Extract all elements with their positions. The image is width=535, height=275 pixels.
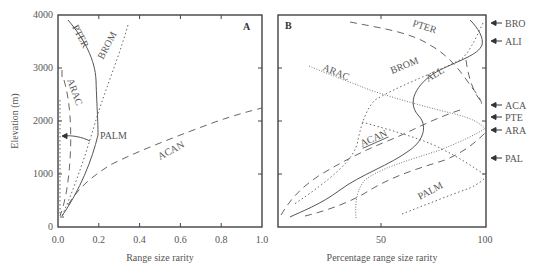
svg-text:ACA: ACA: [505, 100, 527, 111]
y-tick-0: 0: [48, 221, 53, 232]
marker-ara: ARA: [491, 125, 527, 136]
curve-b-all: [290, 20, 482, 217]
panel-b: 50 100 Percentage range size rarity B PT…: [278, 15, 527, 263]
x-tick-0.2: 0.2: [93, 234, 106, 245]
label-a-palm: PALM: [100, 130, 127, 141]
label-b-brom: BROM: [389, 55, 421, 76]
panel-a: 4000 3000 2000 1000 0 Elevation (m) 0.0 …: [9, 9, 268, 263]
y-axis-label: Elevation (m): [9, 93, 21, 148]
marker-pal: PAL: [491, 153, 523, 164]
panel-b-ticks: [278, 15, 486, 227]
label-a-brom: BROM: [95, 30, 119, 61]
svg-text:BRO: BRO: [505, 18, 526, 29]
panel-a-frame: [58, 15, 262, 227]
x-tick-1.0: 1.0: [256, 234, 269, 245]
curve-a-brom: [62, 25, 128, 216]
panel-a-x-ticks: [99, 15, 221, 227]
label-a-pter: PTER: [70, 23, 91, 50]
marker-pte: PTE: [491, 112, 523, 123]
palm-arrow-head-icon: [62, 134, 67, 139]
panel-a-tag: A: [243, 21, 251, 32]
right-markers: BRO ALI ACA PTE ARA PAL: [491, 18, 527, 164]
y-tick-2000: 2000: [33, 115, 53, 126]
x-tick-0.8: 0.8: [215, 234, 228, 245]
panel-b-frame: [278, 15, 486, 227]
svg-text:ALI: ALI: [505, 36, 522, 47]
y-tick-3000: 3000: [33, 62, 53, 73]
svg-text:PTE: PTE: [505, 112, 523, 123]
label-b-acan: ACAN: [358, 127, 388, 149]
curve-a-pter: [62, 20, 98, 216]
curve-b-brom: [293, 23, 483, 205]
label-b-all: ALL: [424, 64, 446, 83]
label-b-arac: ARAC: [321, 62, 351, 83]
y-tick-4000: 4000: [33, 9, 53, 20]
label-a-arac: ARAC: [65, 77, 85, 107]
x-tick-50: 50: [376, 234, 386, 245]
marker-all: ALI: [491, 36, 522, 47]
x-axis-label-b: Percentage range size rarity: [327, 252, 438, 263]
svg-text:ARA: ARA: [505, 125, 527, 136]
x-tick-100: 100: [478, 234, 493, 245]
x-tick-0.4: 0.4: [133, 234, 146, 245]
svg-text:PAL: PAL: [505, 153, 523, 164]
curve-b-lower: [305, 132, 486, 216]
label-b-pter: PTER: [411, 17, 438, 35]
label-a-acan: ACAN: [156, 139, 186, 162]
curve-a-arac: [60, 70, 71, 216]
marker-aca: ACA: [491, 100, 527, 111]
label-b-palm: PALM: [416, 179, 445, 201]
panel-b-tag: B: [285, 20, 292, 31]
x-axis-label-a: Range size rarity: [126, 252, 194, 263]
x-tick-0.0: 0.0: [52, 234, 65, 245]
marker-bro: BRO: [491, 18, 526, 29]
figure: 4000 3000 2000 1000 0 Elevation (m) 0.0 …: [0, 0, 535, 275]
y-tick-1000: 1000: [33, 168, 53, 179]
curve-b-palm: [402, 176, 486, 214]
x-tick-0.6: 0.6: [174, 234, 187, 245]
